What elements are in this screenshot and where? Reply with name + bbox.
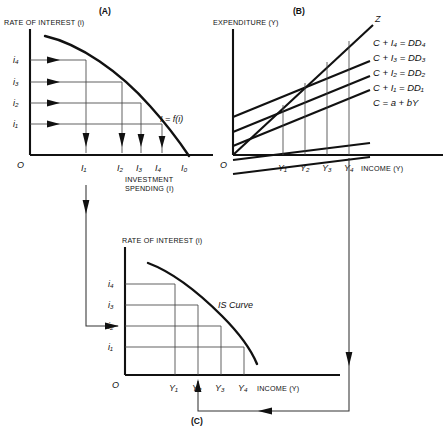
panel-c-curve-label: IS Curve [218,300,253,310]
panel-a-arrow-i3 [47,79,60,86]
panel-c-ytick-i4: i₄ [108,279,114,289]
panel-a-xtick-I4: I₄ [155,163,162,173]
panel-a-ytick-i1: i₁ [13,119,18,129]
panel-c-tag: (C) [191,416,203,426]
panel-a-investment-curve [45,36,189,156]
panel-a-y-axis-label: RATE OF INTEREST (i) [4,18,84,27]
panel-c: RATE OF INTEREST (i) O IS Curve i₄ i₃ i₂… [108,236,340,426]
panel-b-label-dd1: C + I₁ = DD₁ [373,82,424,93]
panel-b-label-dd4: C + I₄ = DD₄ [373,37,426,48]
panel-c-x-axis-label: INCOME (Y) [257,384,299,393]
panel-a-tag: (A) [99,6,111,16]
panel-a-origin: O [17,160,24,170]
panel-a: (A) RATE OF INTEREST (i) O I = f(i) i₄ i… [4,6,213,193]
panel-c-xtick-Y1: Y₁ [169,383,178,393]
panel-b-y-axis-label: EXPENDITURE (Y) [213,18,279,27]
panel-a-xtick-I1: I₁ [81,163,87,173]
panel-a-arrowhead-I4 [159,136,166,148]
flow-arrowhead-b-down [346,352,353,366]
panel-b-dd1-line [233,143,370,160]
panel-b-xtick-Y2: Y₂ [300,163,310,173]
panel-b-dd2-line [233,90,370,146]
panel-a-xtick-I3: I₃ [136,163,143,173]
panel-c-xtick-Y4: Y₄ [238,383,248,393]
panel-b-label-dd3: C + I₃ = DD₃ [373,52,426,63]
panel-b-xtick-Y3: Y₃ [322,163,332,173]
panel-c-y-axis-label: RATE OF INTEREST (i) [122,236,202,245]
panel-a-ytick-i4: i₄ [13,55,19,65]
figure-canvas: (A) RATE OF INTEREST (i) O I = f(i) i₄ i… [0,0,446,429]
panel-b-45-degree-line [233,25,373,155]
is-curve-figure: (A) RATE OF INTEREST (i) O I = f(i) i₄ i… [0,0,446,429]
panel-b-xtick-Y1: Y₁ [278,163,287,173]
flow-arrowhead-a-down [83,200,90,214]
panel-b: (B) EXPENDITURE (Y) O Z C + I₄ = DD₄ C +… [213,6,443,174]
panel-b-origin: O [220,160,227,170]
panel-a-x-axis-label-line1: INVESTMENT [125,175,174,184]
panel-a-ytick-i2: i₂ [13,98,19,108]
panel-c-origin: O [112,380,119,390]
panel-b-dd3-line [233,76,370,132]
panel-b-dd4-line [233,61,370,117]
panel-a-arrow-i2 [47,100,60,107]
panel-a-arrowhead-I1 [83,133,90,147]
panel-a-arrow-i4 [47,57,60,64]
panel-a-xtick-I2: I₂ [117,163,124,173]
panel-b-x-axis-label: INCOME (Y) [361,164,403,173]
panel-a-arrow-i1 [47,121,60,128]
panel-b-label-consumption: C = a + bY [373,97,419,108]
panel-c-xtick-Y3: Y₃ [215,383,225,393]
panel-a-ytick-i3: i₃ [13,77,19,87]
panel-a-x-axis-label-line2: SPENDING (I) [125,184,174,193]
panel-a-arrowhead-I2 [119,133,126,147]
panel-c-ytick-i3: i₃ [108,300,114,310]
panel-a-curve-label: I = f(i) [160,114,183,124]
flow-arrowhead-left [258,408,272,415]
panel-b-label-dd2: C + I₂ = DD₂ [373,67,425,78]
panel-b-tag: (B) [293,6,305,16]
panel-a-arrowhead-I3 [138,134,145,147]
panel-a-xtick-I0: I₀ [181,163,188,173]
panel-c-is-curve [148,263,257,364]
panel-c-ytick-i1: i₁ [108,342,113,352]
panel-b-z-label: Z [374,14,381,24]
